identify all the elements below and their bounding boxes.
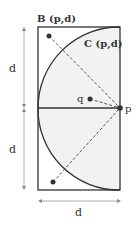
label-point-p: p (125, 103, 131, 114)
point-lower-dot (51, 180, 56, 185)
label-region-c: C (p,d) (84, 38, 122, 50)
point-p-dot (117, 105, 123, 111)
label-dim-upper: d (9, 62, 16, 75)
diagram-canvas: B (p,d) C (p,d) q p d d d (0, 0, 140, 227)
label-point-q: q (77, 93, 84, 104)
point-upper-dot (47, 34, 52, 39)
label-dim-width: d (75, 206, 82, 219)
point-q-dot (88, 97, 93, 102)
label-dim-lower: d (9, 143, 16, 156)
label-region-b: B (p,d) (37, 13, 76, 25)
